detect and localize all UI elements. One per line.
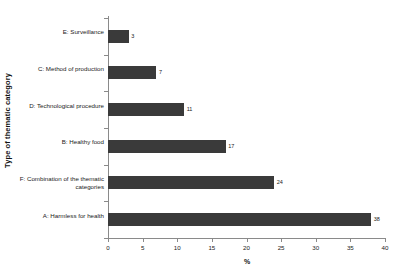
x-axis-tick (316, 238, 317, 242)
bar-row: 38 (108, 201, 385, 238)
bar-chart: Type of thematic category E: Surveillanc… (0, 0, 405, 280)
bar-value-label: 24 (277, 180, 283, 186)
bar-value-label: 7 (159, 70, 162, 76)
y-axis-category-label: B: Healthy food (16, 138, 104, 146)
x-axis-tick-label: 0 (96, 244, 120, 251)
bar-row: 11 (108, 91, 385, 128)
bar-row: 7 (108, 55, 385, 92)
x-axis-title: % (108, 258, 386, 265)
bar-value-label: 11 (187, 107, 193, 113)
bar (108, 213, 371, 226)
x-axis-tick-label: 40 (373, 244, 397, 251)
bar (108, 176, 274, 189)
bar (108, 140, 226, 153)
y-axis-category-label: D: Technological procedure (16, 102, 104, 110)
y-axis-title-text: Type of thematic category (3, 73, 12, 168)
x-axis-tick (177, 238, 178, 242)
x-axis-tick-label: 10 (165, 244, 189, 251)
bar (108, 30, 129, 43)
bar-value-label: 17 (228, 144, 234, 150)
bar-row: 17 (108, 128, 385, 165)
x-axis-tick (143, 238, 144, 242)
x-axis-tick-label: 30 (304, 244, 328, 251)
x-axis-tick (212, 238, 213, 242)
x-axis-tick-label: 15 (200, 244, 224, 251)
x-axis-tick-label: 5 (131, 244, 155, 251)
y-axis-category-label: C: Method of production (16, 65, 104, 73)
x-axis-tick (350, 238, 351, 242)
bar-row: 24 (108, 165, 385, 202)
x-axis-tick (247, 238, 248, 242)
y-axis-category-label: E: Surveillance (16, 28, 104, 36)
y-axis-category-label: F: Combination of the thematic categorie… (16, 175, 104, 191)
x-axis-tick (281, 238, 282, 242)
y-axis-title: Type of thematic category (0, 0, 14, 240)
x-axis-tick-label: 35 (338, 244, 362, 251)
bar (108, 66, 156, 79)
plot-area: 3711172438 (108, 18, 385, 238)
bar-row: 3 (108, 18, 385, 55)
bar (108, 103, 184, 116)
x-axis-tick-label: 20 (235, 244, 259, 251)
x-axis-tick-label: 25 (269, 244, 293, 251)
y-axis-category-label: A: Harmless for health (16, 212, 104, 220)
bar-value-label: 3 (131, 34, 134, 40)
x-axis-tick (385, 238, 386, 242)
x-axis-tick (108, 238, 109, 242)
bar-value-label: 38 (374, 217, 380, 223)
